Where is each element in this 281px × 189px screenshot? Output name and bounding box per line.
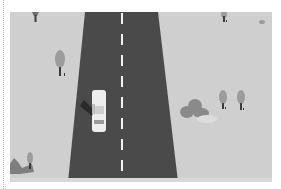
road-scene xyxy=(10,12,272,182)
dotted-border xyxy=(3,0,4,189)
bottom-edge xyxy=(10,178,272,182)
bush-top-right xyxy=(259,20,265,24)
